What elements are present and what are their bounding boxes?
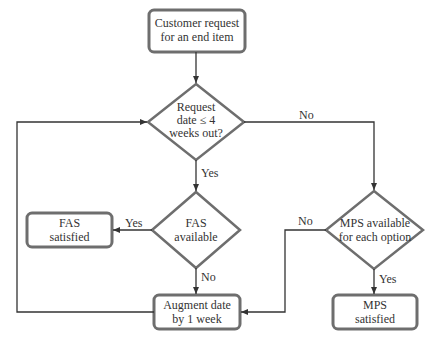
- start-label-line1: Customer request: [149, 16, 245, 30]
- edge-date-no: [244, 122, 374, 190]
- decision-fas-line2: available: [160, 230, 232, 244]
- fas-satisfied-label: FAS satisfied: [27, 216, 112, 244]
- edge-label-date-yes: Yes: [201, 166, 218, 180]
- augment-label: Augment date by 1 week: [154, 298, 240, 326]
- edge-label-date-no: No: [299, 108, 314, 122]
- decision-mps-line1: MPS available: [330, 216, 420, 230]
- edge-label-mps-no: No: [298, 214, 313, 228]
- decision-date-line3: weeks out?: [156, 127, 236, 140]
- edge-label-mps-yes: Yes: [379, 272, 396, 286]
- augment-line1: Augment date: [154, 298, 240, 312]
- flowchart-canvas: [0, 0, 441, 346]
- start-label: Customer request for an end item: [149, 16, 245, 44]
- decision-mps-line2: for each option: [330, 230, 420, 244]
- mps-satisfied-line2: satisfied: [333, 312, 417, 326]
- augment-line2: by 1 week: [154, 312, 240, 326]
- edge-label-fas-yes: Yes: [125, 216, 142, 230]
- mps-satisfied-label: MPS satisfied: [333, 298, 417, 326]
- mps-satisfied-line1: MPS: [333, 298, 417, 312]
- decision-fas-label: FAS available: [160, 216, 232, 244]
- decision-fas-line1: FAS: [160, 216, 232, 230]
- fas-satisfied-line1: FAS: [27, 216, 112, 230]
- edge-label-fas-no: No: [201, 270, 216, 284]
- start-label-line2: for an end item: [149, 30, 245, 44]
- decision-mps-label: MPS available for each option: [330, 216, 420, 244]
- edge-mps-no: [241, 230, 326, 312]
- decision-date-label: Request date ≤ 4 weeks out?: [156, 101, 236, 140]
- fas-satisfied-line2: satisfied: [27, 230, 112, 244]
